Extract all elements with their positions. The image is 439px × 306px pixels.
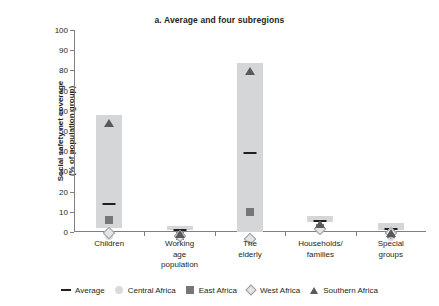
y-tick-label: 100: [55, 26, 68, 35]
x-axis-label: Working age population: [161, 239, 198, 271]
legend-item[interactable]: East Africa: [185, 285, 237, 295]
legend-item[interactable]: West Africa: [246, 285, 300, 295]
top-crop-edge: [0, 0, 439, 4]
figure-panel: a. Average and four subregions Social sa…: [0, 0, 439, 306]
chart-category: Special groups: [356, 30, 426, 232]
data-marker-triangle: [386, 229, 396, 237]
chart-category: The elderly: [215, 30, 285, 232]
legend-circle-icon: [114, 285, 124, 295]
data-marker-dash: [243, 152, 256, 154]
legend-label: West Africa: [260, 286, 300, 295]
y-tick-label: 80: [59, 66, 68, 75]
y-tick: [70, 232, 74, 233]
legend-diamond-icon: [246, 285, 256, 295]
x-axis-label: The elderly: [232, 239, 267, 260]
legend-item[interactable]: Average: [61, 285, 105, 295]
chart-legend: AverageCentral AfricaEast AfricaWest Afr…: [0, 285, 439, 295]
data-marker-dash: [103, 203, 116, 205]
y-tick-label: 20: [59, 187, 68, 196]
y-tick-label: 0: [64, 228, 68, 237]
data-marker-triangle: [175, 230, 185, 238]
legend-label: Average: [75, 286, 105, 295]
y-tick-label: 30: [59, 167, 68, 176]
data-marker-square: [246, 208, 254, 216]
y-tick-label: 70: [59, 86, 68, 95]
y-tick-label: 50: [59, 127, 68, 136]
data-marker-triangle: [245, 67, 255, 75]
data-marker-triangle: [315, 220, 325, 228]
legend-label: Southern Africa: [323, 286, 378, 295]
chart-title: a. Average and four subregions: [0, 15, 439, 25]
x-tick: [215, 232, 216, 236]
chart-category: Working age population: [144, 30, 214, 232]
y-tick-label: 40: [59, 147, 68, 156]
x-tick: [144, 232, 145, 236]
legend-item[interactable]: Southern Africa: [309, 285, 378, 295]
legend-triangle-icon: [309, 285, 319, 295]
y-tick-label: 60: [59, 106, 68, 115]
data-marker-square: [105, 216, 113, 224]
range-bar: [237, 63, 263, 232]
legend-item[interactable]: Central Africa: [114, 285, 176, 295]
legend-label: East Africa: [199, 286, 237, 295]
x-axis-label: Children: [94, 239, 124, 250]
chart-category: Children: [74, 30, 144, 232]
y-tick-label: 10: [59, 207, 68, 216]
x-axis-label: Special groups: [373, 239, 408, 260]
legend-label: Central Africa: [128, 286, 176, 295]
x-axis-label: Households/ families: [298, 239, 342, 260]
legend-square-icon: [185, 285, 195, 295]
plot-area: Social safety net coverage (% of populat…: [74, 30, 426, 232]
range-bar: [96, 115, 122, 228]
x-tick: [285, 232, 286, 236]
data-marker-triangle: [104, 119, 114, 127]
chart-category: Households/ families: [285, 30, 355, 232]
x-tick: [356, 232, 357, 236]
legend-dash-icon: [61, 285, 71, 295]
y-tick-label: 90: [59, 46, 68, 55]
